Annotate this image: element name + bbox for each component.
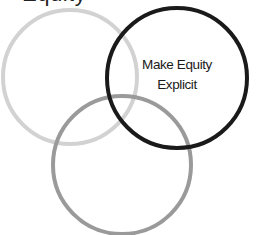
venn-circles (0, 0, 256, 235)
make-equity-explicit-label: Make Equity Explicit (134, 55, 220, 95)
circle-left-light-gray (3, 10, 137, 144)
label-line-1: Make Equity (134, 55, 220, 75)
label-line-2: Explicit (134, 75, 220, 95)
venn-diagram: Equity Make Equity Explicit (0, 0, 256, 235)
